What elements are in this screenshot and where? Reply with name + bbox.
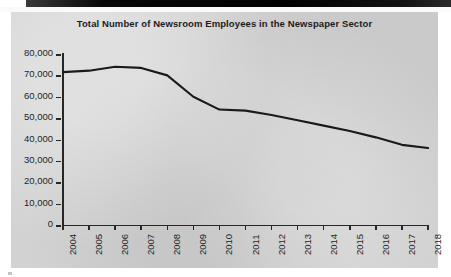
y-axis-tick-label: 60,000 — [24, 90, 53, 101]
y-axis-tick-label: 50,000 — [24, 111, 53, 122]
y-axis-tick-label: 20,000 — [24, 175, 53, 186]
x-axis-tick-mark — [401, 225, 403, 230]
x-axis-tick-label: 2012 — [276, 234, 287, 255]
y-axis-tick-mark — [56, 97, 61, 99]
x-axis-tick-label: 2009 — [197, 234, 208, 255]
x-axis-tick-mark — [323, 225, 325, 230]
x-axis-tick-mark — [427, 225, 429, 230]
y-axis-tick-label: 70,000 — [24, 68, 53, 79]
y-axis-tick-mark — [56, 225, 61, 227]
x-axis-tick-label: 2007 — [145, 234, 156, 255]
x-axis-tick-label: 2013 — [302, 234, 313, 255]
y-axis-tick-mark — [56, 140, 61, 142]
x-axis-tick-mark — [297, 225, 299, 230]
x-axis-tick-label: 2016 — [380, 234, 391, 255]
x-axis-tick-label: 2017 — [406, 234, 417, 255]
x-axis-tick-label: 2005 — [93, 234, 104, 255]
x-axis-tick-label: 2015 — [354, 234, 365, 255]
y-axis-tick-mark — [56, 54, 61, 56]
x-axis-tick-label: 2018 — [432, 234, 443, 255]
y-axis-tick-mark — [56, 75, 61, 77]
x-axis-tick-label: 2008 — [171, 234, 182, 255]
y-axis-tick-label: 80,000 — [24, 47, 53, 58]
x-axis-tick-mark — [349, 225, 351, 230]
chart-panel: Total Number of Newsroom Employees in th… — [11, 12, 438, 268]
y-axis-tick-label: 40,000 — [24, 133, 53, 144]
x-axis-tick-mark — [219, 225, 221, 230]
y-axis-tick-label: 10,000 — [24, 197, 53, 208]
x-axis-tick-label: 2006 — [119, 234, 130, 255]
x-axis-tick-mark — [140, 225, 142, 230]
x-axis-tick-mark — [167, 225, 169, 230]
chart-title: Total Number of Newsroom Employees in th… — [11, 18, 438, 29]
x-axis-tick-mark — [62, 225, 64, 230]
x-axis-tick-mark — [193, 225, 195, 230]
x-axis-tick-mark — [271, 225, 273, 230]
data-series-line — [63, 54, 428, 225]
y-axis-tick-label: 0 — [48, 218, 53, 229]
x-axis-tick-mark — [375, 225, 377, 230]
y-axis-tick-mark — [56, 118, 61, 120]
x-axis-tick-label: 2014 — [328, 234, 339, 255]
x-axis-tick-label: 2004 — [67, 234, 78, 255]
y-axis-tick-mark — [56, 204, 61, 206]
y-axis-tick-mark — [56, 161, 61, 163]
plot-area — [63, 54, 428, 225]
y-axis-tick-label: 30,000 — [24, 154, 53, 165]
y-axis-tick-mark — [56, 182, 61, 184]
x-axis-tick-mark — [88, 225, 90, 230]
scan-artifact-band — [26, 0, 451, 7]
x-axis-tick-label: 2011 — [250, 235, 261, 255]
x-axis-tick-mark — [245, 225, 247, 230]
x-axis-tick-label: 2010 — [223, 234, 234, 255]
scan-speck — [8, 272, 12, 275]
x-axis-tick-mark — [114, 225, 116, 230]
